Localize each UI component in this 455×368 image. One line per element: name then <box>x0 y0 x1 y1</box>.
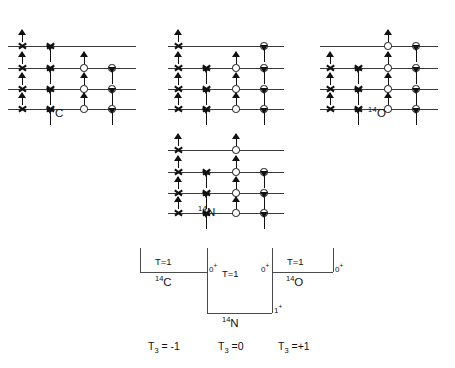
proton-marker-icon <box>326 105 335 114</box>
neutron-marker-icon <box>232 64 239 71</box>
spin-parity-n14-ground: 0+ <box>261 262 269 274</box>
well-left-wall <box>207 248 208 313</box>
energy-level-line <box>320 89 438 90</box>
proton-marker-icon <box>174 209 183 218</box>
spin-parity-o14: 0+ <box>335 262 343 274</box>
proton-marker-icon <box>174 42 183 51</box>
nuclide-label-o14: 14O <box>368 105 386 119</box>
neutron-marker-icon <box>80 64 87 71</box>
well-right-wall <box>333 248 334 272</box>
spin-parity-c14: 0+ <box>209 262 217 274</box>
neutron-marker-icon <box>232 168 239 175</box>
spin-parity-n14: 1+ <box>274 303 282 315</box>
mass-number: 14 <box>198 204 207 213</box>
energy-level-line <box>8 109 136 110</box>
proton-marker-icon <box>18 42 27 51</box>
well-floor <box>140 272 207 273</box>
top-cut-text <box>118 0 358 6</box>
t3-label-1: T3 =0 <box>218 340 243 355</box>
well-left-wall <box>140 248 141 272</box>
well-nuclide-label-c14: 14C <box>155 274 172 288</box>
isospin-value-n14: T=1 <box>222 268 239 279</box>
neutron-marker-icon <box>232 209 239 216</box>
energy-level-line <box>320 46 438 47</box>
isospin-value-c14: T=1 <box>155 256 172 267</box>
energy-level-line <box>8 46 136 47</box>
energy-level-line <box>168 150 284 151</box>
energy-level-line <box>8 89 136 90</box>
well-nuclide-label-o14: 14O <box>286 274 303 288</box>
proton-marker-icon <box>174 105 183 114</box>
energy-level-line <box>320 68 438 69</box>
nuclide-label-c14: 14C <box>46 105 64 119</box>
neutron-marker-icon <box>384 42 391 49</box>
mass-number: 14 <box>46 105 55 114</box>
well-left-wall <box>272 248 273 272</box>
neutron-marker-icon <box>384 64 391 71</box>
proton-marker-icon <box>174 146 183 155</box>
t3-label-0: T3 = -1 <box>148 340 180 355</box>
isospin-value-o14: T=1 <box>287 256 304 267</box>
well-nuclide-label-n14: 14N <box>222 315 239 329</box>
neutron-marker-icon <box>80 105 87 112</box>
nuclide-label-n14: 14N <box>198 204 216 218</box>
neutron-marker-icon <box>232 105 239 112</box>
proton-marker-icon <box>18 105 27 114</box>
well-floor <box>272 272 333 273</box>
mass-number: 14 <box>368 105 377 114</box>
neutron-marker-icon <box>232 146 239 153</box>
energy-level-line <box>8 68 136 69</box>
t3-label-2: T3 =+1 <box>278 340 310 355</box>
well-floor <box>207 313 272 314</box>
figure-canvas: 14C14O14N T=10+14CT=11+14NT=10+14O0+T3 =… <box>0 0 455 368</box>
